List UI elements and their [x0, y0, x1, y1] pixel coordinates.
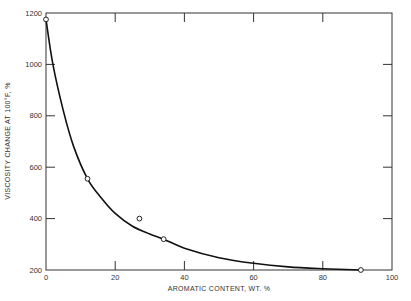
data-point-marker: [85, 176, 90, 181]
x-tick-label: 20: [111, 273, 119, 282]
y-tick-label: 800: [29, 111, 42, 120]
x-tick-label: 80: [319, 273, 327, 282]
chart: 020406080100 20040060080010001200 AROMAT…: [0, 0, 411, 301]
x-tick-label: 60: [249, 273, 257, 282]
x-tick-label: 0: [44, 273, 48, 282]
data-point-marker: [358, 268, 363, 273]
data-point-marker: [161, 237, 166, 242]
x-axis-tick-labels: 020406080100: [44, 273, 398, 282]
y-tick-label: 200: [29, 266, 42, 275]
fitted-curve: [46, 19, 361, 270]
y-axis-title: VISCOSITY CHANGE AT 100°F, %: [4, 82, 11, 199]
x-tick-label: 40: [180, 273, 188, 282]
y-axis-tick-labels: 20040060080010001200: [25, 9, 42, 275]
y-tick-label: 600: [29, 163, 42, 172]
data-point-markers: [44, 17, 364, 272]
x-axis-ticks: [115, 13, 323, 270]
plot-frame: [46, 13, 392, 270]
data-point-marker: [137, 216, 142, 221]
y-tick-label: 1000: [25, 60, 42, 69]
y-tick-label: 400: [29, 214, 42, 223]
data-point-marker: [44, 17, 49, 22]
x-axis-title: AROMATIC CONTENT, WT. %: [168, 285, 270, 292]
x-tick-label: 100: [386, 273, 399, 282]
y-axis-ticks: [46, 64, 392, 218]
y-tick-label: 1200: [25, 9, 42, 18]
